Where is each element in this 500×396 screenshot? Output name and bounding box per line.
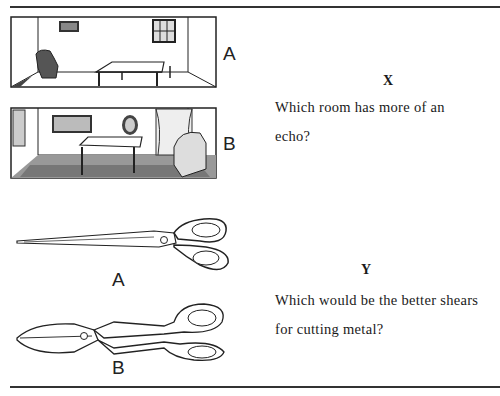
question-x-text-line2: echo?	[275, 122, 500, 150]
shears-option-b-label: B	[112, 357, 125, 379]
sparse-room-icon	[10, 16, 218, 90]
room-option-b-label: B	[223, 133, 236, 155]
furnished-room-icon	[10, 107, 218, 181]
bottom-rule	[10, 386, 500, 388]
question-y-letter: Y	[246, 262, 486, 278]
room-option-a-label: A	[223, 43, 236, 65]
question-y-text-line2: for cutting metal?	[275, 315, 500, 343]
long-scissors-icon	[14, 213, 236, 273]
question-x-text-line1: Which room has more of an	[275, 93, 500, 121]
top-rule	[10, 6, 500, 8]
question-x-letter: X	[268, 73, 500, 89]
tin-snips-icon	[14, 300, 236, 362]
shears-option-a-label: A	[112, 269, 125, 291]
question-y-text-line1: Which would be the better shears	[275, 286, 500, 314]
